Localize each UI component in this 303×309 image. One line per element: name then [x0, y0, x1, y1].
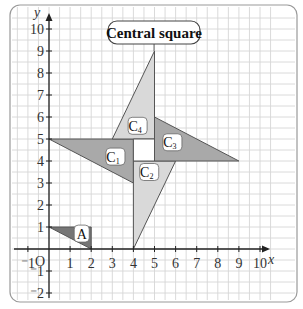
x-tick-label: 4 [130, 256, 137, 271]
y-tick-label: 5 [37, 132, 44, 147]
y-tick-label: 6 [37, 110, 44, 125]
label-a: A [74, 225, 89, 242]
y-tick-label: ⁻2 [30, 286, 44, 301]
y-tick-label: 10 [30, 22, 44, 37]
label-c1: C1 [106, 148, 125, 166]
origin-label: O [35, 254, 45, 269]
label-c4: C4 [128, 117, 147, 135]
y-tick-label: 8 [37, 66, 44, 81]
x-tick-label: 7 [193, 256, 200, 271]
y-tick-label: 9 [37, 44, 44, 59]
coordinate-diagram: AC1C2C3C4 ⁻11234567891010987654321⁻1⁻2 x… [0, 0, 303, 309]
y-tick-label: 2 [37, 198, 44, 213]
x-tick-label: 10 [253, 256, 267, 271]
x-tick-label: 3 [109, 256, 116, 271]
x-tick-label: 5 [151, 256, 158, 271]
x-tick-label: 1 [67, 256, 74, 271]
central-square [133, 139, 154, 161]
label-c3: C3 [163, 134, 182, 152]
x-axis-label: x [267, 252, 275, 267]
x-tick-label: 2 [88, 256, 95, 271]
x-tick-label: 8 [214, 256, 221, 271]
x-tick-label: 9 [235, 256, 242, 271]
y-tick-label: 3 [37, 176, 44, 191]
x-tick-label: 6 [172, 256, 179, 271]
label-text: A [77, 227, 88, 242]
y-tick-label: 7 [37, 88, 44, 103]
y-axis-label: y [32, 5, 41, 20]
y-tick-label: 1 [37, 220, 44, 235]
y-tick-label: 4 [37, 154, 44, 169]
label-c2: C2 [140, 164, 159, 182]
badge-text: Central square [106, 25, 202, 41]
